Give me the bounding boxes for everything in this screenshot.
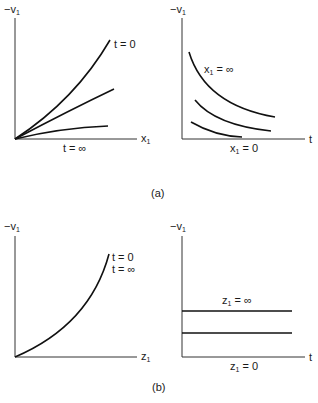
caption-a: (a) xyxy=(151,187,164,199)
curve-t-0-and-infinity xyxy=(15,254,109,357)
panel-a-right-plot: −v1 t x1 = ∞ x1 = 0 xyxy=(170,3,312,155)
x-axis-label: t xyxy=(309,133,312,145)
figure-canvas: −v1 x1 t = 0 t = ∞ −v1 t x1 = ∞ x1 = 0 (… xyxy=(0,0,318,403)
x-axis-label: t xyxy=(309,351,312,363)
curve-t-mid xyxy=(15,89,114,139)
curve-label-t-infinity: t = ∞ xyxy=(112,263,135,275)
y-axis-label: −v1 xyxy=(170,220,186,233)
y-axis-label: −v1 xyxy=(4,220,20,233)
curve-label-t-0: t = 0 xyxy=(112,251,134,263)
bottom-label-z1-zero: z1 = 0 xyxy=(230,360,258,373)
bottom-label-t-infinity: t = ∞ xyxy=(63,142,86,154)
curve-label-t-0: t = 0 xyxy=(114,38,136,50)
caption-b: (b) xyxy=(152,381,165,393)
panel-b-left-plot: −v1 z1 t = 0 t = ∞ xyxy=(4,220,151,363)
line-label-z1-infinity: z1 = ∞ xyxy=(222,294,252,307)
curve-label-x1-infinity: x1 = ∞ xyxy=(204,63,234,76)
x-axis-label: z1 xyxy=(141,350,151,363)
panel-b-right-plot: −v1 t z1 = ∞ z1 = 0 xyxy=(170,220,312,373)
bottom-label-x1-zero: x1 = 0 xyxy=(230,142,258,155)
x-axis-label: x1 xyxy=(141,132,151,145)
panel-a-left-plot: −v1 x1 t = 0 t = ∞ xyxy=(4,3,151,154)
y-axis-label: −v1 xyxy=(170,3,186,16)
curve-t-0 xyxy=(15,40,110,139)
y-axis-label: −v1 xyxy=(4,3,20,16)
